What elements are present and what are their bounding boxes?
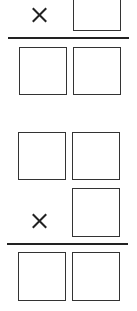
product-tens-box[interactable]	[18, 252, 66, 301]
multiplier-box[interactable]	[72, 188, 120, 237]
multiplicand-tens-box[interactable]	[18, 132, 66, 180]
multiply-icon: ×	[31, 213, 47, 229]
result-line	[8, 37, 129, 39]
multiplicand-ones-box[interactable]	[72, 132, 120, 180]
product-tens-box[interactable]	[19, 47, 67, 95]
multiplier-box[interactable]	[73, 0, 121, 31]
result-line	[7, 243, 128, 245]
product-ones-box[interactable]	[73, 47, 121, 95]
product-ones-box[interactable]	[72, 252, 120, 301]
multiply-icon: ×	[31, 7, 47, 23]
